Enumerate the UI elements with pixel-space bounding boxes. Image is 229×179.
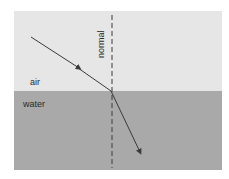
refraction-diagram: air water normal <box>0 0 229 179</box>
air-region <box>14 11 222 91</box>
normal-label: normal <box>96 30 106 58</box>
water-region <box>14 91 222 170</box>
air-label: air <box>30 77 40 87</box>
water-label: water <box>22 99 45 109</box>
